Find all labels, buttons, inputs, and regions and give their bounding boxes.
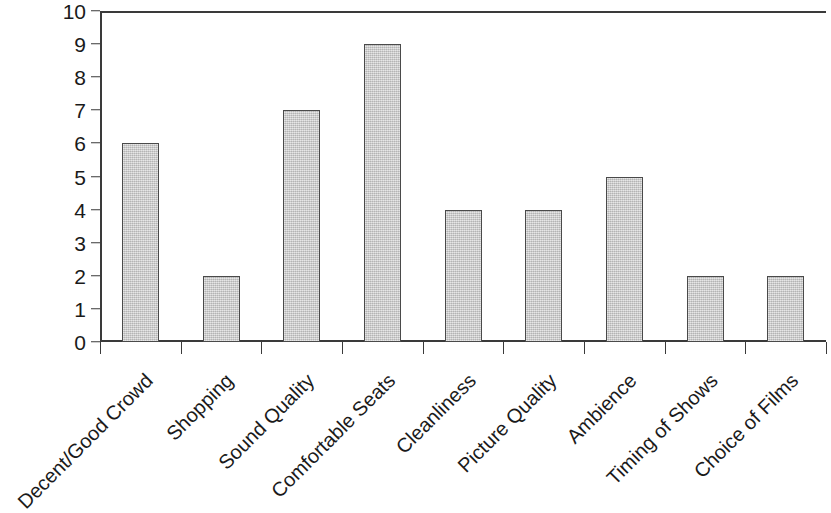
y-tick-mark [91,10,100,11]
x-tick-mark [342,342,343,354]
plot-area: 012345678910 [100,11,826,342]
bar [445,210,482,342]
x-tick-label: Shopping [163,370,237,444]
y-tick-label: 3 [74,232,86,253]
x-tick-mark [503,342,504,354]
x-tick-label: Cleanliness [392,370,479,457]
y-tick-mark [91,308,100,309]
y-tick-label: 1 [74,298,86,319]
bar [606,177,643,343]
y-tick-mark [91,110,100,111]
x-tick-mark [745,342,746,354]
y-tick-mark [91,76,100,77]
bar [525,210,562,342]
x-tick-mark [665,342,666,354]
y-tick-mark [91,242,100,243]
y-tick-label: 9 [74,34,86,55]
plot-top-border [100,11,826,13]
y-axis-line [100,11,102,342]
y-tick-mark [91,341,100,342]
y-tick-mark [91,143,100,144]
x-tick-label: Ambience [563,370,640,447]
y-tick-mark [91,275,100,276]
x-tick-mark [826,342,827,354]
y-tick-label: 7 [74,100,86,121]
y-tick-label: 6 [74,133,86,154]
y-tick-mark [91,43,100,44]
y-tick-label: 0 [74,332,86,353]
bar [767,276,804,342]
bar [364,44,401,342]
x-tick-mark [584,342,585,354]
y-tick-label: 4 [74,199,86,220]
y-tick-mark [91,209,100,210]
x-tick-mark [181,342,182,354]
bar [122,143,159,342]
bar [687,276,724,342]
x-tick-mark [261,342,262,354]
bar [203,276,240,342]
x-tick-mark [423,342,424,354]
y-tick-label: 10 [63,1,86,22]
x-tick-label: Decent/Good Crowd [14,370,156,512]
y-tick-label: 2 [74,265,86,286]
x-tick-mark [100,342,101,354]
y-tick-mark [91,176,100,177]
y-tick-label: 8 [74,67,86,88]
bar [283,110,320,342]
y-tick-label: 5 [74,166,86,187]
